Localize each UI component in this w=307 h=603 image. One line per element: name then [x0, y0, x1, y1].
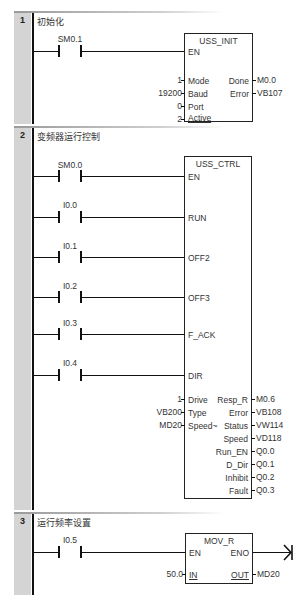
network-number: 1 [14, 15, 31, 25]
contact-no-left-bar[interactable] [58, 170, 60, 182]
output-value-error[interactable]: VB107 [257, 88, 283, 98]
pin-tick [252, 93, 256, 94]
pin-port: Port [188, 102, 204, 112]
pin-inhibit: Inhibit [225, 473, 248, 483]
network-number: 3 [14, 516, 31, 526]
pin-eno: ENO [231, 548, 249, 558]
output-value-inhibit[interactable]: Q0.2 [256, 472, 274, 482]
pin-tick [251, 477, 255, 478]
uss-init-block[interactable]: USS_INIT EN Mode Baud Port Active Done E… [184, 33, 253, 122]
network-title[interactable]: 运行频率设置 [37, 516, 91, 529]
contact-no-left-bar[interactable] [58, 328, 60, 340]
pin-speed-sp: Speed~ [188, 421, 218, 431]
contact-address: I0.1 [50, 241, 90, 251]
left-power-rail [32, 128, 34, 510]
pin-dir: DIR [188, 371, 203, 381]
wire [33, 297, 59, 298]
contact-address: I0.0 [50, 200, 90, 210]
pin-tick [252, 80, 256, 81]
pin-tick [251, 490, 255, 491]
wire [82, 176, 185, 177]
input-value-type[interactable]: VB200 [156, 407, 182, 417]
block-name: MOV_R [186, 536, 252, 546]
network-title[interactable]: 变频器运行控制 [37, 130, 100, 143]
contact-no-left-bar[interactable] [58, 369, 60, 381]
wire [33, 552, 59, 553]
network-title[interactable]: 初始化 [37, 15, 64, 28]
uss-ctrl-block[interactable]: USS_CTRL EN RUN OFF2 OFF3 F_ACK DIR Driv… [184, 156, 252, 499]
pin-done: Done [229, 76, 249, 86]
pin-mode: Mode [188, 76, 209, 86]
pin-drive: Drive [188, 395, 208, 405]
contact-no-left-bar[interactable] [58, 211, 60, 223]
network-separator [14, 126, 224, 128]
output-value-d-dir[interactable]: Q0.1 [256, 459, 274, 469]
block-name: USS_INIT [185, 36, 252, 46]
pin-tick [251, 412, 255, 413]
contact-no-left-bar[interactable] [58, 45, 60, 57]
output-value-speed[interactable]: VD118 [256, 433, 281, 443]
pin-in: IN [189, 570, 198, 580]
pin-active: Active [188, 113, 211, 123]
wire [82, 297, 185, 298]
pin-error: Error [230, 89, 249, 99]
contact-no-left-bar[interactable] [58, 251, 60, 263]
contact-address: I0.3 [50, 318, 90, 328]
wire [33, 51, 59, 52]
output-value-status[interactable]: VW114 [256, 420, 283, 430]
contact-address: SM0.0 [50, 160, 90, 170]
pin-tick [181, 106, 185, 107]
pin-type: Type [188, 408, 206, 418]
network-number: 2 [14, 130, 31, 140]
input-value-baud[interactable]: 19200 [158, 88, 182, 98]
pin-off2: OFF2 [188, 253, 210, 263]
pin-resp-r: Resp_R [217, 395, 248, 405]
contact-address: I0.5 [50, 535, 90, 545]
wire [33, 176, 59, 177]
pin-status: Status [224, 421, 248, 431]
network-gutter [14, 514, 31, 595]
pin-en: EN [189, 548, 201, 558]
pin-tick [181, 399, 185, 400]
network-gutter [14, 128, 31, 510]
wire [82, 334, 185, 335]
output-value-done[interactable]: M0.0 [257, 75, 276, 85]
mov-r-block[interactable]: MOV_R EN ENO IN OUT [185, 533, 253, 584]
wire [33, 375, 59, 376]
contact-address: I0.2 [50, 281, 90, 291]
wire [82, 257, 185, 258]
input-value-speed-sp[interactable]: MD20 [159, 420, 182, 430]
pin-off3: OFF3 [188, 293, 210, 303]
pin-tick [251, 451, 255, 452]
output-value-run-en[interactable]: Q0.0 [256, 446, 274, 456]
open-output-arrow-icon [283, 544, 295, 561]
contact-no-left-bar[interactable] [58, 291, 60, 303]
pin-tick [251, 399, 255, 400]
pin-tick [181, 425, 185, 426]
left-power-rail [32, 514, 34, 595]
pin-en: EN [188, 47, 200, 57]
left-power-rail [32, 13, 34, 124]
contact-no-left-bar[interactable] [58, 546, 60, 558]
input-value-in[interactable]: 50.0 [166, 569, 183, 579]
network-separator [14, 11, 224, 13]
pin-fault: Fault [229, 486, 248, 496]
pin-tick [252, 574, 256, 575]
wire [33, 257, 59, 258]
output-value-fault[interactable]: Q0.3 [256, 485, 274, 495]
network-separator [14, 512, 224, 514]
pin-speed: Speed [223, 434, 248, 444]
pin-tick [251, 464, 255, 465]
wire [33, 334, 59, 335]
pin-f-ack: F_ACK [188, 330, 215, 340]
block-name: USS_CTRL [185, 159, 251, 169]
output-value-out[interactable]: MD20 [257, 569, 280, 579]
pin-tick [181, 119, 185, 120]
pin-tick [181, 80, 185, 81]
wire [82, 552, 185, 553]
output-value-error[interactable]: VB108 [256, 407, 282, 417]
output-value-resp-r[interactable]: M0.6 [256, 394, 275, 404]
pin-tick [251, 438, 255, 439]
wire [82, 51, 185, 52]
wire [82, 375, 185, 376]
